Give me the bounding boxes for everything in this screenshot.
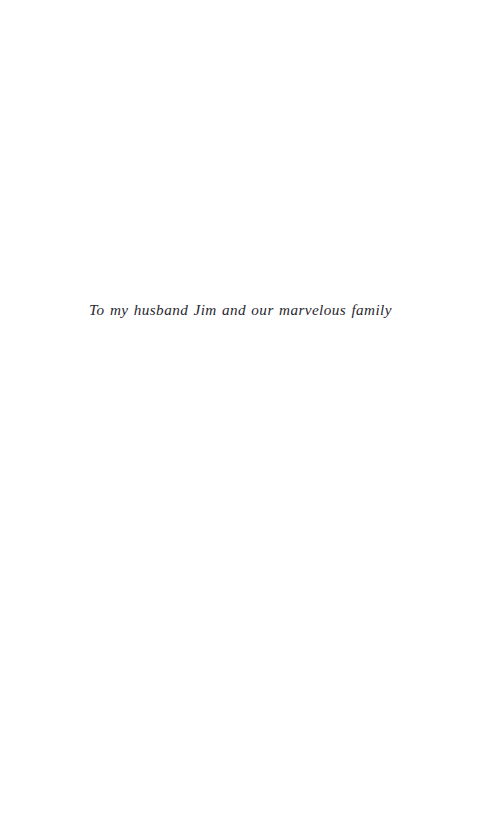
dedication-block: To my husband Jim and our marvelous fami… <box>0 300 481 320</box>
book-page: To my husband Jim and our marvelous fami… <box>0 0 481 814</box>
dedication-text: To my husband Jim and our marvelous fami… <box>89 300 392 320</box>
page-top-blank-space <box>0 0 481 305</box>
page-bottom-blank-space <box>0 330 481 814</box>
